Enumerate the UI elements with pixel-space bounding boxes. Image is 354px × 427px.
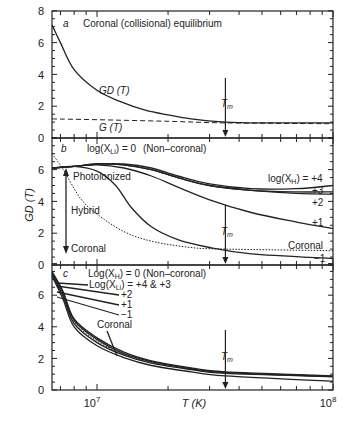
x-tick-1e8: 108 bbox=[320, 395, 337, 409]
y-tick-labels: 0 2 4 6 8 0 2 4 6 0 2 4 6 bbox=[38, 5, 44, 396]
gd-curve-label: GD (T) bbox=[99, 85, 130, 96]
tm-label-a: Tm bbox=[221, 98, 233, 110]
panel-a-labels: a Coronal (collisional) equilibrium GD (… bbox=[63, 18, 222, 133]
y-tick-a-0: 0 bbox=[38, 132, 44, 144]
xhm1-label: −1 bbox=[314, 253, 326, 264]
g-curve-label: G (T) bbox=[99, 122, 122, 133]
panel-b-title: log(XLi) = 0 bbox=[87, 143, 137, 155]
y-tick-c-6: 6 bbox=[38, 289, 44, 301]
panel-b-letter: b bbox=[61, 143, 67, 154]
c-coronal-label: Coronal bbox=[97, 319, 132, 330]
panel-c-letter: c bbox=[63, 268, 68, 279]
coronal-left-label: Coronal bbox=[71, 243, 106, 254]
y-tick-c-2: 2 bbox=[38, 353, 44, 365]
x-tick-labels: 107 108 T (K) bbox=[84, 395, 337, 409]
y-tick-a-6: 6 bbox=[38, 37, 44, 49]
xh3-label: +3 bbox=[312, 185, 324, 196]
panel-c-labels: c Log(XH) = 0 (Non–coronal) Log(XLi) = +… bbox=[63, 268, 233, 363]
xh1-label: +1 bbox=[312, 217, 324, 228]
panel-a-series bbox=[52, 25, 333, 137]
coronal-right-label: Coronal bbox=[288, 240, 323, 251]
y-tick-a-8: 8 bbox=[38, 5, 44, 17]
axis-ticks bbox=[52, 11, 333, 390]
tm-arrowhead-icon bbox=[222, 130, 228, 137]
xh4-label: log(XH) = +4 bbox=[268, 173, 323, 185]
y-tick-c-4: 4 bbox=[38, 321, 44, 333]
y-tick-b-6: 6 bbox=[38, 164, 44, 176]
y-tick-a-2: 2 bbox=[38, 100, 44, 112]
arrow-down-icon bbox=[63, 246, 69, 254]
hybrid-label: Hybrid bbox=[71, 205, 100, 216]
series-coronal bbox=[52, 154, 333, 251]
y-tick-a-4: 4 bbox=[38, 69, 44, 81]
x-axis-label: T (K) bbox=[182, 397, 207, 409]
leader-line bbox=[57, 283, 88, 285]
panel-b-labels: b log(XLi) = 0 (Non–coronal) Photoionize… bbox=[61, 143, 326, 264]
tm-arrowhead-icon bbox=[222, 257, 228, 264]
y-axis-label: GD (T) bbox=[23, 188, 35, 222]
panel-a-letter: a bbox=[63, 18, 69, 29]
xh2-label: +2 bbox=[312, 197, 324, 208]
y-tick-b-2: 2 bbox=[38, 227, 44, 239]
tm-label-b: Tm bbox=[221, 226, 233, 238]
y-tick-b-4: 4 bbox=[38, 196, 44, 208]
y-tick-b-0: 0 bbox=[38, 259, 44, 271]
photoionized-label: Photoionized bbox=[73, 171, 131, 182]
arrow-up-icon bbox=[63, 168, 69, 176]
tm-arrowhead-icon bbox=[222, 382, 228, 389]
tm-label-c: Tm bbox=[221, 351, 233, 363]
y-tick-c-0: 0 bbox=[38, 384, 44, 396]
x-tick-1e7: 107 bbox=[84, 395, 101, 409]
chart-figure: 0 2 4 6 8 0 2 4 6 0 2 4 6 GD (T) 107 108… bbox=[0, 0, 354, 427]
panel-a-title: Coronal (collisional) equilibrium bbox=[83, 18, 222, 29]
panel-b-noncoronal: (Non–coronal) bbox=[143, 143, 206, 154]
series-gd-t- bbox=[52, 25, 333, 123]
